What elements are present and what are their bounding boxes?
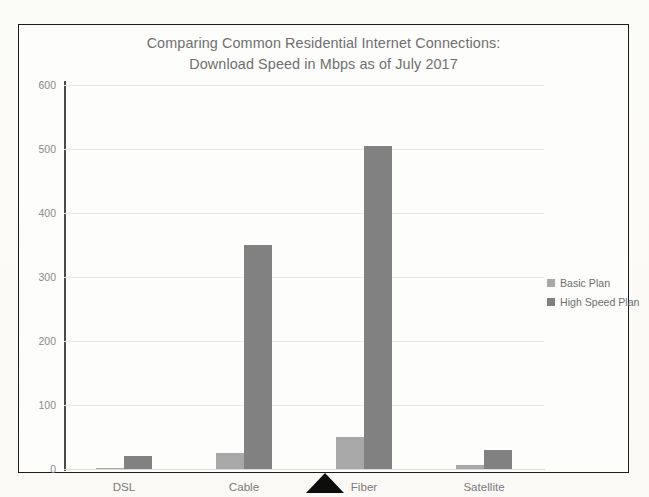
bar-cable-high-speed-plan[interactable]	[244, 245, 272, 469]
y-axis-tick-label: 400	[38, 207, 56, 219]
legend-swatch-icon	[547, 298, 555, 306]
bar-satellite-basic-plan[interactable]	[456, 465, 484, 469]
x-axis-tick-label-satellite: Satellite	[424, 480, 544, 493]
legend-item-label: Basic Plan	[560, 277, 610, 289]
y-axis-tick-label: 100	[38, 399, 56, 411]
pointer-triangle-icon	[306, 473, 344, 493]
y-axis-tick-label: 300	[38, 271, 56, 283]
x-axis-tick-label-cable: Cable	[184, 480, 304, 493]
legend-item-label: High Speed Plan	[560, 296, 640, 308]
bar-dsl-high-speed-plan[interactable]	[124, 456, 152, 469]
chart-frame: Comparing Common Residential Internet Co…	[18, 24, 629, 473]
bar-group-cable: Cable	[184, 85, 304, 469]
bar-group-satellite: Satellite	[424, 85, 544, 469]
bar-satellite-high-speed-plan[interactable]	[484, 450, 512, 469]
chart-title: Comparing Common Residential Internet Co…	[19, 33, 628, 75]
chart-title-line-1: Comparing Common Residential Internet Co…	[19, 33, 628, 54]
plot-area: 6005004003002001000DSLCableFiberSatellit…	[64, 85, 544, 469]
page-background: Comparing Common Residential Internet Co…	[0, 0, 649, 497]
bar-group-fiber: Fiber	[304, 85, 424, 469]
x-axis-tick-label-dsl: DSL	[64, 480, 184, 493]
chart-legend: Basic PlanHigh Speed Plan	[547, 277, 647, 315]
y-axis-tick-label: 600	[38, 79, 56, 91]
bar-group-dsl: DSL	[64, 85, 184, 469]
y-axis-tick-label: 0	[50, 463, 56, 475]
y-axis-tick-label: 500	[38, 143, 56, 155]
legend-swatch-icon	[547, 279, 555, 287]
bar-cable-basic-plan[interactable]	[216, 453, 244, 469]
bar-dsl-basic-plan[interactable]	[96, 468, 124, 469]
gridline	[64, 469, 544, 470]
bar-fiber-basic-plan[interactable]	[336, 437, 364, 469]
chart-title-line-2: Download Speed in Mbps as of July 2017	[19, 54, 628, 75]
legend-item-high-speed-plan[interactable]: High Speed Plan	[547, 296, 647, 308]
y-axis-tick-label: 200	[38, 335, 56, 347]
bar-fiber-high-speed-plan[interactable]	[364, 146, 392, 469]
legend-item-basic-plan[interactable]: Basic Plan	[547, 277, 647, 289]
